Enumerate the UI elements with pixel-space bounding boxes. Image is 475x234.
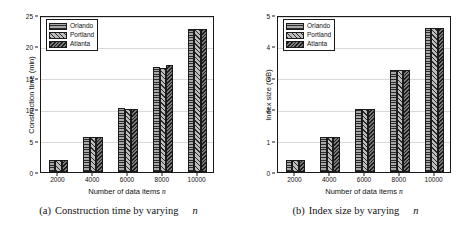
x-tick-label: 10000: [188, 176, 206, 183]
caption-a: (a)Construction time by varyingn: [0, 205, 237, 216]
legend-item-orlando: Orlando: [49, 22, 94, 30]
y-tick-label: 15: [26, 75, 33, 82]
x-axis-title-variable: n: [162, 187, 166, 196]
bar-atlanta-4000: [333, 137, 339, 172]
legend-label-portland: Portland: [70, 31, 94, 39]
bar-atlanta-10000: [438, 28, 444, 172]
caption-text-b: Index size by varying: [309, 205, 400, 216]
legend-swatch-portland: [286, 32, 304, 39]
legend-a: Orlando Portland Atlanta: [46, 19, 98, 51]
x-tick-mark: [294, 173, 295, 176]
legend-label-atlanta: Atlanta: [70, 40, 90, 48]
legend-b: Orlando Portland Atlanta: [283, 19, 335, 51]
x-axis-title-variable: n: [399, 187, 403, 196]
legend-item-atlanta: Atlanta: [49, 40, 94, 48]
y-axis-tick-labels-a: 0510152025: [0, 16, 38, 173]
y-tick-mark: [35, 47, 38, 48]
bar-atlanta-2000: [62, 160, 68, 172]
legend-item-portland: Portland: [49, 31, 94, 39]
panel-b: Index size (GB) 012345 Orlando Portland …: [237, 0, 474, 234]
caption-tag-a: (a): [39, 205, 51, 216]
caption-var-b: n: [413, 205, 418, 216]
y-tick-label: 10: [26, 107, 33, 114]
gridline: [278, 17, 450, 18]
legend-swatch-portland: [49, 32, 67, 39]
y-tick-label: 2: [266, 107, 270, 114]
y-tick-label: 0: [29, 170, 33, 177]
x-tick-label: 10000: [425, 176, 443, 183]
x-axis-title-a: Number of data items n: [40, 187, 214, 196]
y-tick-label: 3: [266, 75, 270, 82]
x-tick-mark: [364, 173, 365, 176]
bar-orlando-10000: [188, 29, 194, 172]
x-tick-mark: [161, 173, 162, 176]
y-axis-tick-labels-b: 012345: [237, 16, 275, 173]
bar-orlando-2000: [286, 160, 292, 172]
x-tick-label: 6000: [357, 176, 371, 183]
bar-portland-4000: [90, 137, 96, 172]
plot-area-b: Orlando Portland Atlanta: [277, 16, 451, 173]
y-tick-mark: [35, 16, 38, 17]
legend-item-portland: Portland: [286, 31, 331, 39]
x-tick-label: 6000: [120, 176, 134, 183]
gridline: [41, 17, 213, 18]
legend-label-orlando: Orlando: [70, 22, 93, 30]
bar-portland-10000: [431, 28, 437, 172]
y-tick-mark: [272, 110, 275, 111]
bar-atlanta-4000: [96, 137, 102, 172]
bar-portland-2000: [292, 160, 298, 172]
figure-two-panel: Construction time (min) 0510152025 Orlan…: [0, 0, 475, 234]
x-tick-mark: [92, 173, 93, 176]
legend-item-atlanta: Atlanta: [286, 40, 331, 48]
x-tick-label: 8000: [155, 176, 169, 183]
bar-orlando-6000: [355, 109, 361, 172]
bar-orlando-10000: [425, 28, 431, 172]
y-tick-label: 1: [266, 138, 270, 145]
y-tick-label: 25: [26, 13, 33, 20]
x-tick-mark: [329, 173, 330, 176]
y-tick-label: 5: [266, 13, 270, 20]
x-axis-tick-labels-b: 200040006000800010000: [277, 173, 451, 187]
bar-atlanta-6000: [131, 109, 137, 172]
plot-area-a: Orlando Portland Atlanta: [40, 16, 214, 173]
x-tick-mark: [127, 173, 128, 176]
y-tick-mark: [272, 78, 275, 79]
legend-swatch-orlando: [49, 23, 67, 30]
y-tick-mark: [272, 141, 275, 142]
y-tick-mark: [35, 110, 38, 111]
x-tick-label: 4000: [85, 176, 99, 183]
bar-orlando-8000: [153, 67, 159, 173]
bar-atlanta-8000: [166, 65, 172, 172]
bar-portland-8000: [160, 68, 166, 172]
legend-item-orlando: Orlando: [286, 22, 331, 30]
y-tick-mark: [35, 141, 38, 142]
bar-orlando-8000: [390, 70, 396, 172]
bar-portland-2000: [55, 160, 61, 172]
x-tick-mark: [433, 173, 434, 176]
y-tick-label: 20: [26, 44, 33, 51]
x-tick-mark: [398, 173, 399, 176]
y-tick-label: 0: [266, 170, 270, 177]
legend-label-atlanta: Atlanta: [307, 40, 327, 48]
bar-portland-8000: [397, 70, 403, 172]
panel-a: Construction time (min) 0510152025 Orlan…: [0, 0, 237, 234]
y-tick-mark: [272, 16, 275, 17]
y-tick-label: 5: [29, 138, 33, 145]
bar-atlanta-10000: [201, 29, 207, 172]
y-tick-mark: [272, 47, 275, 48]
y-tick-mark: [272, 173, 275, 174]
caption-text-a: Construction time by varying: [55, 205, 178, 216]
y-tick-label: 4: [266, 44, 270, 51]
caption-var-a: n: [192, 205, 197, 216]
x-tick-label: 8000: [392, 176, 406, 183]
x-tick-label: 2000: [50, 176, 64, 183]
x-tick-label: 4000: [322, 176, 336, 183]
legend-swatch-atlanta: [49, 41, 67, 48]
bar-atlanta-2000: [299, 160, 305, 172]
y-tick-mark: [35, 173, 38, 174]
legend-swatch-atlanta: [286, 41, 304, 48]
bar-orlando-2000: [49, 160, 55, 172]
x-axis-tick-labels-a: 200040006000800010000: [40, 173, 214, 187]
bar-portland-10000: [194, 29, 200, 172]
legend-label-orlando: Orlando: [307, 22, 330, 30]
